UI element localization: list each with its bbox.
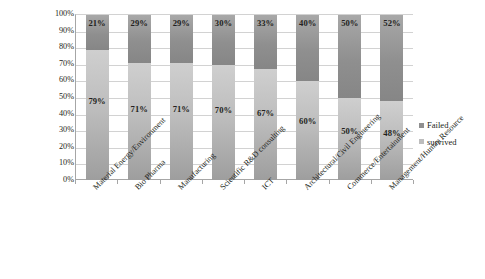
legend-swatch-icon — [419, 139, 424, 144]
bar-slot: 40%60% — [287, 15, 329, 180]
y-axis-tick-label: 40% — [40, 109, 74, 117]
chart-legend: Failedsurvived — [419, 121, 481, 154]
bar-segment-failed[interactable]: 30% — [212, 15, 235, 65]
y-axis-tick-label: 50% — [40, 93, 74, 101]
x-axis-labels: Material Energy/EnvironmentBio PharmaMan… — [0, 184, 485, 279]
bar-value-label: 29% — [173, 19, 190, 28]
bar-stack[interactable]: 40%60% — [296, 15, 319, 180]
bar-value-label: 60% — [299, 117, 316, 126]
bar-value-label: 21% — [88, 19, 105, 28]
legend-label: Failed — [427, 121, 448, 130]
bar-segment-survived[interactable]: 60% — [296, 81, 319, 180]
bar-value-label: 67% — [257, 109, 274, 118]
bar-slot: 29%71% — [160, 15, 202, 180]
bar-value-label: 30% — [215, 19, 232, 28]
bar-value-label: 52% — [383, 19, 400, 28]
y-axis-tick-label: 90% — [40, 26, 74, 34]
y-axis-tick-label: 0% — [40, 176, 74, 184]
bar-segment-survived[interactable]: 71% — [128, 63, 151, 180]
bar-segment-failed[interactable]: 29% — [128, 15, 151, 63]
stacked-bar-chart: 100%90%80%70%60%50%40%30%20%10%0% 21%79%… — [0, 0, 485, 279]
bar-segment-survived[interactable]: 79% — [86, 50, 109, 180]
bar-value-label: 70% — [215, 106, 232, 115]
bar-segment-failed[interactable]: 29% — [170, 15, 193, 63]
y-axis: 100%90%80%70%60%50%40%30%20%10%0% — [40, 14, 74, 180]
bar-value-label: 50% — [341, 19, 358, 28]
bar-segment-failed[interactable]: 50% — [338, 15, 361, 98]
y-axis-tick-label: 70% — [40, 60, 74, 68]
bar-segment-survived[interactable]: 67% — [254, 69, 277, 180]
y-axis-tick-label: 30% — [40, 126, 74, 134]
y-axis-tick-label: 10% — [40, 159, 74, 167]
bar-segment-failed[interactable]: 33% — [254, 15, 277, 69]
legend-label: survived — [427, 138, 457, 147]
bar-value-label: 79% — [88, 97, 105, 106]
bar-value-label: 71% — [131, 105, 148, 114]
y-axis-tick-label: 20% — [40, 143, 74, 151]
y-axis-tick-label: 60% — [40, 76, 74, 84]
bar-stack[interactable]: 21%79% — [86, 15, 109, 180]
bar-value-label: 33% — [257, 19, 274, 28]
legend-item[interactable]: Failed — [419, 121, 481, 130]
bar-value-label: 40% — [299, 19, 316, 28]
bar-segment-failed[interactable]: 52% — [380, 15, 403, 101]
y-axis-tick-label: 80% — [40, 43, 74, 51]
bar-segment-survived[interactable]: 70% — [212, 65, 235, 181]
bar-value-label: 29% — [131, 19, 148, 28]
bar-value-label: 71% — [173, 105, 190, 114]
y-axis-tick-label: 100% — [40, 10, 74, 18]
legend-item[interactable]: survived — [419, 138, 481, 147]
bar-segment-survived[interactable]: 71% — [170, 63, 193, 180]
bar-segment-failed[interactable]: 21% — [86, 15, 109, 50]
legend-swatch-icon — [419, 123, 424, 128]
bar-stack[interactable]: 29%71% — [170, 15, 193, 180]
bar-slot: 21%79% — [76, 15, 118, 180]
bar-segment-failed[interactable]: 40% — [296, 15, 319, 81]
